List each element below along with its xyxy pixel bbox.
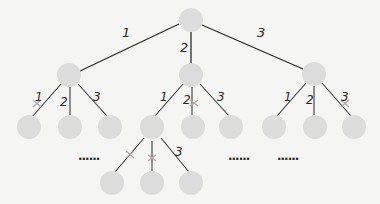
cross-icon [126,151,134,158]
tree-canvas: 1 2 3 1 2 3 1 2 3 1 2 3 3 ...... ...... … [0,0,380,204]
node-deep-2 [140,171,164,195]
tree-diagram: 1 2 3 1 2 3 1 2 3 1 2 3 3 ...... ...... … [0,0,380,204]
node-middle-2 [181,115,205,139]
label-left-1: 1 [35,90,43,104]
label-middle-1: 1 [160,90,168,104]
label-right-3: 3 [341,90,349,104]
ellipsis-middle: ...... [228,149,250,163]
node-right-1 [262,115,286,139]
node-middle-1 [140,115,164,139]
node-left-2 [58,115,82,139]
edge-middle-3 [200,84,229,116]
node-left-1 [17,115,41,139]
label-left-3: 3 [93,90,101,104]
node-right-2 [303,115,327,139]
ellipsis-left: ...... [78,149,100,163]
label-right-1: 1 [284,90,292,104]
node-left [57,63,81,87]
label-right-2: 2 [306,93,314,107]
node-middle [179,63,203,87]
label-middle-3: 3 [217,90,225,104]
label-root-left: 1 [122,25,130,40]
label-deep-3: 3 [175,145,183,159]
node-deep-1 [100,171,124,195]
node-middle-3 [219,115,243,139]
label-middle-2: 2 [183,93,191,107]
ellipsis-right: ...... [277,149,299,163]
node-root [179,8,203,32]
node-deep-3 [179,171,203,195]
edge-root-right [202,25,303,69]
node-right [302,62,326,86]
label-root-middle: 2 [180,40,188,55]
node-right-3 [342,115,366,139]
label-left-2: 2 [60,95,68,109]
node-left-3 [98,115,122,139]
cross-icon [190,100,198,106]
label-root-right: 3 [257,25,265,40]
